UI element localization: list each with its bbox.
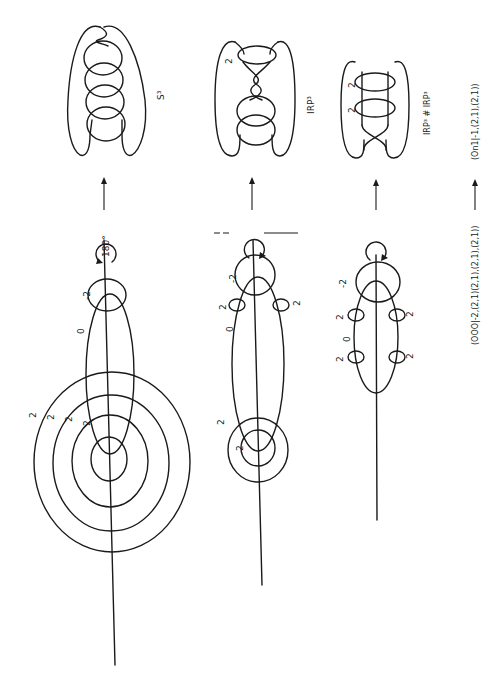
row1-framing-label-1: 2	[28, 412, 38, 418]
row3-end-circle	[356, 262, 400, 302]
row1-result-right-lobe	[104, 26, 146, 155]
row3-result-framing-label-2: 2	[347, 107, 357, 113]
row2-result-right-lobe	[272, 42, 295, 156]
row2-end-circle	[235, 255, 275, 295]
row3-end-circle-label: -2	[338, 279, 348, 288]
row2-small-circle-label-1: 2	[218, 304, 228, 310]
row3-axis-line	[376, 255, 377, 520]
row1-result-circle-3	[86, 85, 124, 119]
row3-result-label: IRP³ # IRP³	[423, 91, 432, 135]
row1-framing-label-2: 2	[46, 414, 56, 420]
row3-result-framing-label-1: 2	[347, 82, 357, 88]
row3-source-diagram	[348, 242, 405, 520]
row1-end-circle-label: -2	[82, 291, 92, 300]
row1-rotation-label: 180°	[101, 235, 111, 257]
row1-result-circle-1	[84, 41, 122, 75]
row2-result-band	[238, 46, 276, 64]
row1-map-arrow	[101, 177, 107, 210]
row3-small-circle-label-4: 2	[405, 353, 415, 359]
row2-axis-line	[253, 240, 262, 585]
row2-small-circle-1	[229, 299, 245, 311]
figure-canvas: 2 2 2 2 0 -2 180° S³ -2 2 2 0 2 2	[0, 0, 499, 675]
row3-result-band-1	[355, 73, 395, 91]
row1-result-diagram	[68, 26, 146, 155]
bottom-map-arrow	[472, 179, 478, 210]
row1-result-label: S³	[156, 90, 166, 100]
row1-result-twist	[96, 27, 108, 46]
row3-small-circle-label-1: 2	[335, 314, 345, 320]
row2-small-circle-label-2: 2	[292, 300, 302, 306]
row1-source-diagram	[34, 240, 190, 665]
row3-map-arrow	[373, 179, 379, 210]
row2-source-diagram	[214, 233, 298, 585]
row2-result-label: IRP³	[306, 96, 316, 114]
row2-map-arrow	[249, 177, 255, 210]
row1-framing-label-4: 2	[82, 420, 92, 426]
row2-result-framing-label: 2	[224, 58, 234, 64]
row2-small-circle-2	[273, 299, 289, 311]
row1-ellipse-label: 0	[76, 328, 86, 334]
row3-result-band-2	[355, 99, 395, 117]
row2-end-circle-label: -2	[228, 274, 238, 283]
row1-result-circle-2	[85, 63, 123, 97]
row3-small-circle-label-2: 2	[405, 311, 415, 317]
row3-rotation-arrowhead	[381, 254, 388, 261]
row3-small-circle-label-3: 2	[335, 356, 345, 362]
row2-result-circle-2	[237, 115, 275, 145]
row2-framing-label-1: 2	[216, 419, 226, 425]
bottom-label-right: (On1|-1,(2,1),(2,1))	[471, 84, 480, 160]
row2-ellipse-label: 0	[225, 326, 235, 332]
row3-ellipse-label: 0	[342, 336, 352, 342]
bottom-label-left: (OOO|-2,(2,1)(2,1),(2,1),(2,1))	[471, 226, 480, 345]
row1-framing-label-3: 2	[64, 416, 74, 422]
row2-framing-label-2: 2	[235, 445, 245, 451]
row3-result-twist-b	[364, 125, 388, 150]
row1-result-circle-4	[87, 107, 125, 141]
row2-result-top-right	[270, 42, 278, 54]
row1-result-left-lobe	[68, 26, 100, 155]
row2-result-circle-1	[237, 96, 275, 126]
